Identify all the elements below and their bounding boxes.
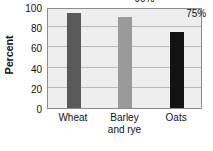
y-axis-title-text: Percent (3, 36, 15, 75)
y-axis-title: Percent (0, 0, 18, 110)
x-axis-tick-line: and rye (108, 124, 141, 136)
bars-layer: 94%90%75% (48, 9, 201, 108)
y-axis-tick-80: 80 (31, 23, 42, 34)
y-axis-tick-labels: 020406080100 (18, 8, 45, 109)
bar-group-0: 94% (48, 9, 100, 108)
bar-value-label-2: 75% (186, 8, 206, 20)
y-axis-tick-100: 100 (25, 3, 42, 14)
bar-value-label-1: 90% (134, 0, 154, 5)
x-axis-tick-labels: WheatBarleyand ryeOats (47, 112, 202, 150)
plot-area: 94%90%75% (47, 8, 202, 109)
y-axis-tick-0: 0 (36, 104, 42, 115)
bar-0[interactable] (67, 13, 81, 108)
y-axis-tick-40: 40 (31, 63, 42, 74)
bar-1[interactable] (118, 17, 132, 108)
y-axis-tick-60: 60 (31, 43, 42, 54)
bar-chart-figure: Percent 020406080100 94%90%75% WheatBarl… (0, 0, 213, 151)
x-axis-tick-0: Wheat (58, 112, 87, 124)
x-axis-tick-line: Wheat (58, 112, 87, 124)
x-axis-tick-1: Barleyand rye (108, 112, 141, 135)
x-axis-tick-2: Oats (166, 112, 187, 124)
bar-value-label-0: 94% (83, 0, 103, 1)
bar-group-1: 90% (100, 9, 152, 108)
bar-2[interactable] (170, 32, 184, 108)
x-axis-tick-line: Oats (166, 112, 187, 124)
x-axis-tick-line: Barley (108, 112, 141, 124)
y-axis-tick-20: 20 (31, 83, 42, 94)
bar-group-2: 75% (151, 9, 203, 108)
